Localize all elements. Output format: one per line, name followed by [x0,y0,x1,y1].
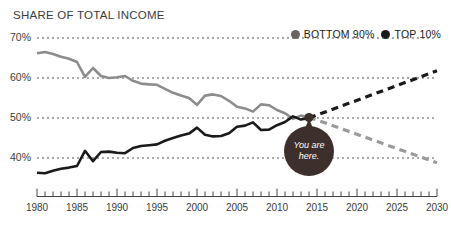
series-line-0 [37,52,309,119]
x-axis-tick-label: 2010 [260,202,294,213]
x-axis-tick-label: 1995 [140,202,174,213]
x-axis-tick-label: 2030 [420,202,451,213]
y-axis-tick-label: 60% [1,71,31,83]
series-line-2 [37,116,309,173]
x-axis [37,189,437,197]
x-axis-tick-label: 1990 [100,202,134,213]
y-axis-tick-label: 40% [1,151,31,163]
callout-line-2: here. [299,151,320,162]
x-axis-tick-label: 2005 [220,202,254,213]
you-are-here-callout: You are here. [284,126,334,176]
x-axis-tick-label: 2015 [300,202,334,213]
callout-line-1: You are [293,140,324,151]
x-axis-tick-label: 2020 [340,202,374,213]
income-share-chart: SHARE OF TOTAL INCOME BOTTOM 90% TOP 10%… [0,0,451,234]
x-axis-tick-label: 1985 [60,202,94,213]
gridlines [37,38,437,158]
x-axis-tick-label: 2000 [180,202,214,213]
x-axis-tick-label: 1980 [20,202,54,213]
y-axis-tick-label: 70% [1,31,31,43]
x-axis-tick-label: 2025 [380,202,414,213]
plot-area [0,0,451,234]
y-axis-tick-label: 50% [1,111,31,123]
data-series [37,52,437,173]
